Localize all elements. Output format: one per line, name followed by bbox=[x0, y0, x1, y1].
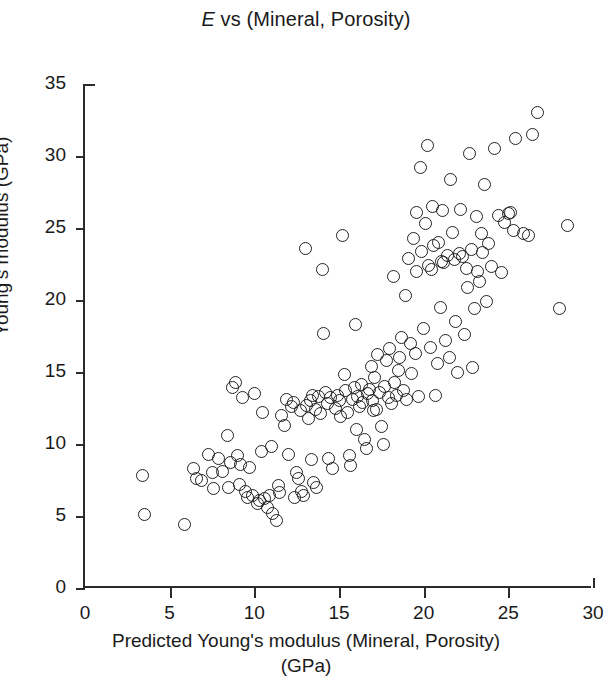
scatter-point bbox=[504, 206, 517, 219]
scatter-point bbox=[316, 263, 329, 276]
scatter-point bbox=[270, 514, 283, 527]
y-tick-label: 10 bbox=[26, 432, 66, 454]
scatter-point bbox=[392, 364, 405, 377]
scatter-point bbox=[326, 462, 339, 475]
scatter-point bbox=[349, 318, 362, 331]
x-tick-mark bbox=[424, 588, 426, 598]
x-tick-label: 10 bbox=[244, 602, 265, 624]
x-tick-label: 30 bbox=[582, 602, 603, 624]
scatter-point bbox=[454, 203, 467, 216]
scatter-point bbox=[407, 232, 420, 245]
scatter-point bbox=[443, 351, 456, 364]
scatter-point bbox=[488, 142, 501, 155]
plot-area: 05101520253035 051015202530 bbox=[83, 84, 591, 588]
x-tick-mark bbox=[170, 588, 172, 598]
scatter-point bbox=[360, 442, 373, 455]
x-tick-label: 25 bbox=[498, 602, 519, 624]
scatter-point bbox=[136, 469, 149, 482]
scatter-point bbox=[375, 420, 388, 433]
scatter-point bbox=[292, 472, 305, 485]
y-tick-label: 5 bbox=[26, 504, 66, 526]
scatter-point bbox=[495, 266, 508, 279]
scatter-point bbox=[509, 132, 522, 145]
scatter-point bbox=[221, 429, 234, 442]
scatter-point bbox=[410, 265, 423, 278]
chart-page: E vs (Mineral, Porosity) Young's modulus… bbox=[0, 0, 612, 681]
scatter-point bbox=[377, 438, 390, 451]
scatter-point bbox=[480, 295, 493, 308]
chart-title: E vs (Mineral, Porosity) bbox=[0, 8, 612, 31]
y-tick-mark bbox=[76, 156, 85, 158]
scatter-point bbox=[305, 453, 318, 466]
x-tick-mark bbox=[339, 588, 341, 598]
x-tick-mark bbox=[254, 588, 256, 598]
scatter-point bbox=[288, 491, 301, 504]
y-tick-mark bbox=[76, 300, 85, 302]
scatter-point bbox=[256, 406, 269, 419]
scatter-point bbox=[410, 206, 423, 219]
x-tick-mark bbox=[593, 578, 595, 588]
scatter-point bbox=[470, 210, 483, 223]
scatter-point bbox=[229, 376, 242, 389]
scatter-point bbox=[553, 302, 566, 315]
scatter-point bbox=[432, 236, 445, 249]
y-tick-mark bbox=[76, 228, 85, 230]
x-axis-title-line1: Predicted Young's modulus (Mineral, Poro… bbox=[0, 628, 612, 653]
x-axis-title: Predicted Young's modulus (Mineral, Poro… bbox=[0, 628, 612, 678]
scatter-point bbox=[278, 419, 291, 432]
scatter-point bbox=[458, 328, 471, 341]
scatter-point bbox=[424, 341, 437, 354]
scatter-point bbox=[405, 367, 418, 380]
scatter-point bbox=[425, 263, 438, 276]
scatter-point bbox=[380, 354, 393, 367]
scatter-point bbox=[317, 327, 330, 340]
scatter-point bbox=[419, 217, 432, 230]
scatter-point bbox=[299, 242, 312, 255]
scatter-point bbox=[273, 486, 286, 499]
x-tick-label: 0 bbox=[80, 602, 91, 624]
scatter-point bbox=[341, 406, 354, 419]
scatter-point bbox=[393, 351, 406, 364]
scatter-point bbox=[417, 322, 430, 335]
scatter-point bbox=[344, 459, 357, 472]
y-tick-mark bbox=[76, 588, 85, 590]
scatter-point bbox=[451, 366, 464, 379]
scatter-point bbox=[282, 448, 295, 461]
scatter-point bbox=[412, 390, 425, 403]
scatter-point bbox=[446, 226, 459, 239]
y-tick-mark bbox=[76, 516, 85, 518]
y-axis-title: Young's modulus (GPa) bbox=[0, 137, 13, 336]
x-tick-mark bbox=[508, 588, 510, 598]
y-tick-label: 20 bbox=[26, 288, 66, 310]
scatter-point bbox=[449, 315, 462, 328]
y-tick-label: 35 bbox=[26, 72, 66, 94]
scatter-point bbox=[434, 301, 447, 314]
scatter-point bbox=[338, 368, 351, 381]
scatter-point bbox=[561, 219, 574, 232]
scatter-point bbox=[387, 270, 400, 283]
y-tick-mark bbox=[76, 444, 85, 446]
x-axis-title-line2: (GPa) bbox=[0, 653, 612, 678]
scatter-point bbox=[522, 229, 535, 242]
y-tick-label: 0 bbox=[26, 576, 66, 598]
x-tick-label: 5 bbox=[164, 602, 175, 624]
scatter-point bbox=[526, 128, 539, 141]
scatter-point bbox=[531, 106, 544, 119]
scatter-point bbox=[336, 229, 349, 242]
scatter-point bbox=[431, 357, 444, 370]
y-tick-label: 15 bbox=[26, 360, 66, 382]
scatter-point bbox=[310, 481, 323, 494]
scatter-point bbox=[429, 389, 442, 402]
y-tick-label: 25 bbox=[26, 216, 66, 238]
scatter-point bbox=[468, 302, 481, 315]
scatter-point bbox=[248, 387, 261, 400]
scatter-point bbox=[436, 204, 449, 217]
scatter-point bbox=[402, 252, 415, 265]
scatter-point bbox=[439, 334, 452, 347]
scatter-point bbox=[138, 508, 151, 521]
scatter-point bbox=[482, 237, 495, 250]
scatter-point bbox=[306, 389, 319, 402]
scatter-point bbox=[207, 482, 220, 495]
scatter-point bbox=[466, 361, 479, 374]
scatter-point bbox=[265, 440, 278, 453]
